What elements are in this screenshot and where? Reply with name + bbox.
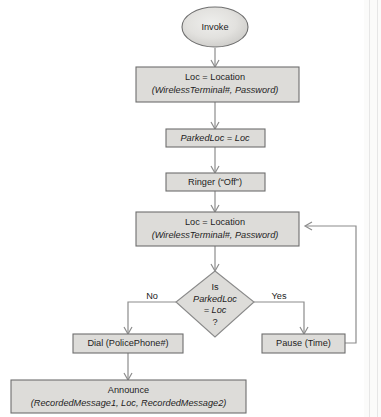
node-invoke-label: Invoke — [201, 22, 228, 32]
connector-decision-yes-to-pause — [254, 302, 304, 333]
node-dial-label-upright: Dial ( — [87, 338, 108, 348]
svg-text:Dial (PolicePhone#): Dial (PolicePhone#) — [87, 338, 168, 348]
node-announce-line2: (RecordedMessage1, Loc, RecordedMessage2… — [31, 398, 227, 408]
node-decision-line2: ParkedLoc — [193, 294, 237, 304]
page-edge-shadow — [364, 0, 381, 417]
node-pause-label-close: ) — [328, 338, 331, 348]
flowchart-canvas: Invoke Loc = Location (WirelessTerminal#… — [0, 0, 381, 417]
node-location1-line1-italic: Loc — [185, 72, 200, 82]
node-dial-label-italic: PolicePhone# — [109, 338, 167, 348]
svg-text:Loc = Location: Loc = Location — [185, 72, 245, 82]
node-parkedloc-label: ParkedLoc = Loc — [180, 133, 250, 143]
node-decision-shape — [176, 271, 254, 337]
node-location1-line2: (WirelessTerminal#, Password) — [152, 85, 279, 95]
node-ringer-label: Ringer (“Off”) — [188, 177, 242, 187]
node-decision-line4: ? — [212, 317, 217, 327]
node-announce-line1: Announce — [108, 385, 149, 395]
node-decision-line1: Is — [211, 282, 219, 292]
node-decision-line3: = Loc — [204, 305, 227, 315]
svg-text:Pause (Time): Pause (Time) — [276, 338, 331, 348]
node-location2-line1-rest: = Location — [200, 217, 245, 227]
branch-label-yes: Yes — [272, 291, 287, 301]
branch-label-no: No — [146, 291, 158, 301]
connector-decision-no-to-dial — [128, 302, 176, 333]
node-location2-line1-italic: Loc — [185, 217, 200, 227]
node-pause-label-italic: Time — [308, 338, 328, 348]
flowchart-svg: Invoke Loc = Location (WirelessTerminal#… — [0, 0, 381, 417]
node-location2-line2: (WirelessTerminal#, Password) — [152, 230, 279, 240]
node-location1-line1-rest: = Location — [200, 72, 245, 82]
node-pause-label-upright: Pause ( — [276, 338, 308, 348]
node-dial-label-close: ) — [166, 338, 169, 348]
connector-pause-feedback-loop — [306, 226, 356, 343]
svg-text:Loc = Location: Loc = Location — [185, 217, 245, 227]
